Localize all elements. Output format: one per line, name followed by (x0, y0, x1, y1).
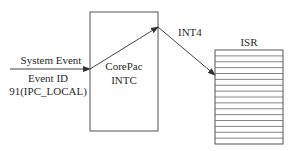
intc-box-label-line2: INTC (111, 74, 137, 86)
interrupt-routing-diagram: System Event Event ID 91(IPC_LOCAL) Core… (0, 0, 293, 151)
event-id-value: 91(IPC_LOCAL) (9, 85, 87, 98)
isr-title: ISR (240, 36, 258, 48)
event-id-label: Event ID (28, 72, 68, 84)
isr-table (215, 50, 283, 144)
int4-label: INT4 (178, 26, 202, 38)
system-event-label: System Event (21, 54, 82, 66)
intc-box-label-line1: CorePac (105, 60, 142, 72)
